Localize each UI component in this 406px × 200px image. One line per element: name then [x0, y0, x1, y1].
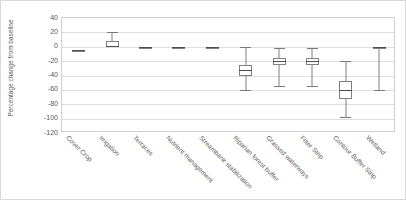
plot-area: [61, 17, 395, 132]
y-axis-tick-labels: 40200-20-40-60-80-100-120: [29, 17, 58, 132]
whisker-cap-upper: [274, 48, 285, 49]
y-axis-tick-label: -120: [32, 129, 58, 136]
x-axis-category-label: Irrigation: [97, 134, 121, 158]
box-plot-item: [296, 18, 329, 131]
y-axis-tick-label: -40: [32, 71, 58, 78]
box-plot-item: [329, 18, 362, 131]
median-line: [239, 70, 252, 71]
whisker-lower: [245, 76, 246, 90]
box-plot-item: [129, 18, 162, 131]
box-plot-item: [162, 18, 195, 131]
whisker-cap-lower: [374, 90, 385, 91]
whisker-upper: [312, 48, 313, 57]
whisker-cap-upper: [340, 61, 351, 62]
whisker-lower: [379, 48, 380, 90]
whisker-cap-upper: [107, 32, 118, 33]
whisker-cap-lower: [240, 90, 251, 91]
median-line: [72, 50, 85, 51]
y-axis-tick-label: -80: [32, 100, 58, 107]
y-axis-tick-label: 20: [32, 28, 58, 35]
whisker-lower: [279, 65, 280, 87]
median-line: [373, 47, 386, 48]
whisker-cap-upper: [307, 48, 318, 49]
x-axis-category-labels: Cover CropIrrigationTerracesNutrient man…: [61, 134, 395, 200]
whisker-cap-upper: [240, 47, 251, 48]
box-plot-item: [229, 18, 262, 131]
median-line: [306, 61, 319, 62]
x-axis-category-label: Wetland: [365, 134, 388, 157]
whisker-upper: [345, 61, 346, 81]
whisker-lower: [312, 65, 313, 87]
y-axis-tick-label: -20: [32, 57, 58, 64]
median-line: [139, 47, 152, 48]
median-line: [206, 47, 219, 48]
whisker-upper: [112, 32, 113, 41]
median-line: [273, 61, 286, 62]
whisker-upper: [245, 47, 246, 65]
median-line: [339, 90, 352, 91]
x-axis-category-label: Cover Crop: [64, 134, 93, 163]
y-axis-tick-label: 0: [32, 42, 58, 49]
whisker-upper: [279, 48, 280, 57]
y-axis-tick-label: -60: [32, 85, 58, 92]
x-axis-category-label: Filter Strip: [298, 134, 325, 161]
whisker-lower: [345, 99, 346, 118]
whisker-cap-lower: [340, 117, 351, 118]
y-axis-tick-label: 40: [32, 14, 58, 21]
median-line: [172, 47, 185, 48]
box-plot-item: [95, 18, 128, 131]
box-plot-chart: Percentage change from baseline 40200-20…: [0, 0, 406, 200]
x-axis-category-label: Terraces: [131, 134, 155, 158]
y-axis-title: Percentage change from baseline: [2, 3, 20, 133]
box-plot-item: [363, 18, 396, 131]
median-line: [106, 46, 119, 47]
box-plot-item: [196, 18, 229, 131]
whisker-cap-lower: [274, 86, 285, 87]
box-plot-item: [62, 18, 95, 131]
y-axis-tick-label: -100: [32, 114, 58, 121]
box-plot-item: [262, 18, 295, 131]
whisker-cap-lower: [307, 86, 318, 87]
